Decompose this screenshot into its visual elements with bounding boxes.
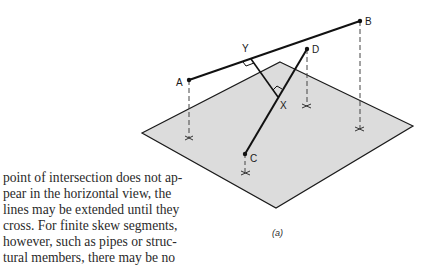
point-b bbox=[358, 19, 362, 23]
point-a bbox=[187, 78, 191, 82]
text-line: pear in the horizontal view, the bbox=[3, 186, 203, 202]
label-b: B bbox=[365, 16, 372, 27]
right-angle-mark-y bbox=[243, 62, 254, 66]
point-d bbox=[305, 47, 309, 51]
text-line: point of intersection does not ap- bbox=[3, 170, 203, 186]
label-x: X bbox=[280, 100, 287, 111]
text-line: however, such as pipes or struc- bbox=[3, 234, 203, 250]
text-line: lines may be extended until they bbox=[3, 202, 203, 218]
text-line: tural members, there may be no bbox=[3, 250, 203, 266]
text-line: cross. For finite skew segments, bbox=[3, 218, 203, 234]
label-c: C bbox=[250, 153, 257, 164]
body-paragraph: point of intersection does not ap- pear … bbox=[3, 170, 203, 266]
label-d: D bbox=[312, 44, 319, 55]
figure-caption: (a) bbox=[272, 228, 283, 238]
label-y: Y bbox=[242, 43, 249, 54]
point-c bbox=[243, 152, 247, 156]
label-a: A bbox=[176, 77, 183, 88]
